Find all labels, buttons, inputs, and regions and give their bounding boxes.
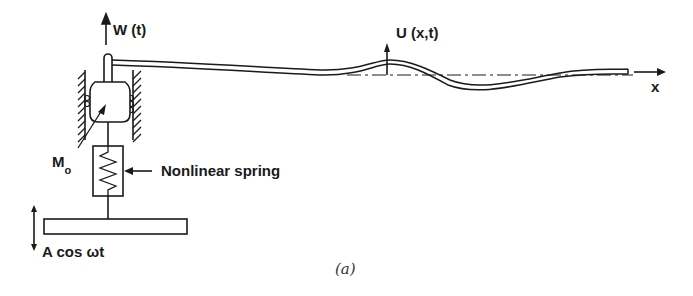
- w-arrow-icon: [102, 14, 110, 45]
- label-u-xt: U (x,t): [396, 24, 439, 41]
- excitation-arrow-icon: [31, 205, 37, 251]
- platform: [44, 219, 187, 234]
- label-mass-sub: o: [65, 164, 72, 176]
- label-x-axis: x: [651, 78, 659, 95]
- right-wall: [133, 70, 141, 142]
- left-wall: [78, 70, 85, 142]
- figure-caption: (a): [335, 260, 356, 278]
- spring-zigzag-icon: [100, 146, 116, 196]
- u-arrow-icon: [384, 43, 390, 75]
- x-axis-arrow-icon: [657, 68, 666, 76]
- rod: [104, 54, 112, 82]
- label-mass: Mo: [52, 153, 71, 173]
- label-w-t: W (t): [113, 21, 146, 38]
- mass-body: [90, 82, 130, 122]
- label-mass-main: M: [52, 153, 65, 170]
- label-excitation: A cos ωt: [42, 243, 104, 260]
- label-nonlinear-spring: Nonlinear spring: [161, 162, 280, 179]
